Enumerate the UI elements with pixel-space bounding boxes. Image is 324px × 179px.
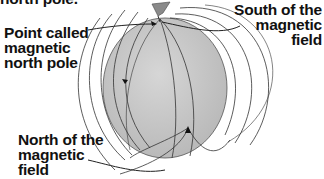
label-magnetic-north-pole: Point called magnetic north pole (4, 25, 89, 70)
label-north-of-field: North of the magnetic field (18, 132, 103, 177)
flag-icon (152, 2, 170, 16)
label-south-of-field: South of the magnetic field (234, 2, 322, 47)
title-fragment: north pole. (0, 0, 78, 6)
magnetic-field-diagram: north pole. Point called magnetic north … (0, 0, 324, 179)
